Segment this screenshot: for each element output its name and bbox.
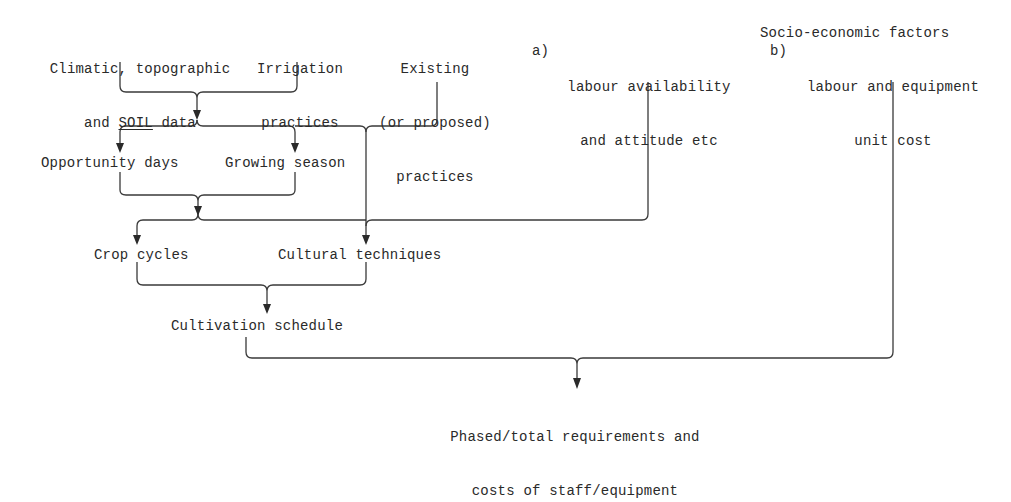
node-climatic-data: Climatic, topographic and SOIL data xyxy=(50,24,231,168)
node-crop-cycles: Crop cycles xyxy=(94,246,189,264)
node-labour-equipment-cost: labour and equipment unit cost xyxy=(807,42,979,186)
node-labour-availability: labour availability and attitude etc xyxy=(567,42,730,186)
node-existing-practices: Existing (or proposed) practices xyxy=(379,24,491,222)
node-irrigation-practices: Irrigation practices xyxy=(257,24,343,168)
arrowhead-icon xyxy=(573,378,581,389)
arrowhead-icon xyxy=(133,235,141,245)
soil-emphasis: SOIL xyxy=(118,115,152,131)
node-final-requirements: Phased/total requirements and costs of s… xyxy=(450,392,699,502)
node-cultural-techniques: Cultural techniques xyxy=(278,246,441,264)
connector-row2-merge xyxy=(120,172,295,201)
arrowhead-icon xyxy=(263,304,271,314)
marker-a: a) xyxy=(532,42,549,60)
node-growing-season: Growing season xyxy=(225,154,345,172)
arrowhead-icon xyxy=(362,235,370,245)
node-opportunity-days: Opportunity days xyxy=(41,154,179,172)
node-cultivation-schedule: Cultivation schedule xyxy=(171,317,343,335)
marker-b: b) xyxy=(770,42,787,60)
socio-economic-title: Socio-economic factors xyxy=(760,24,949,42)
connector-row3-merge xyxy=(137,262,366,291)
